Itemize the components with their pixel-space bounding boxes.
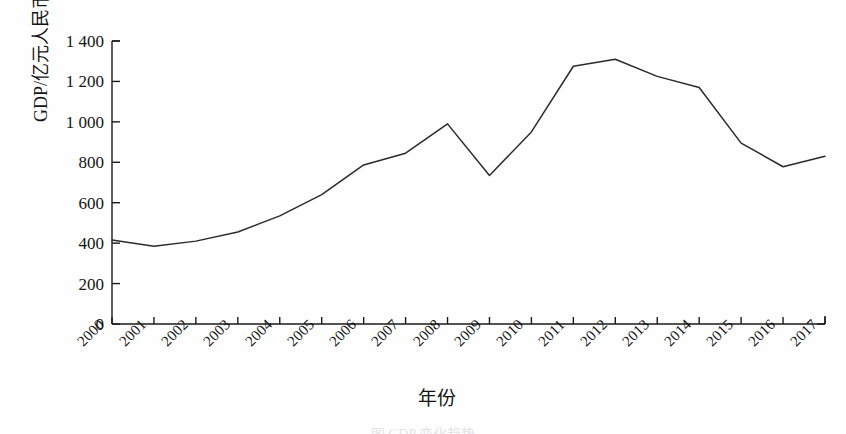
- x-tick-label: 2015: [703, 316, 737, 350]
- x-tick-label: 2016: [745, 316, 779, 350]
- figure-caption: 图 GDP 变化趋势: [0, 424, 846, 434]
- x-axis-title: 年份: [0, 383, 846, 410]
- x-axis-title-text: 年份: [390, 388, 456, 409]
- x-tick-label: 2011: [535, 316, 569, 350]
- x-axis-tick-labels: 2000200120022003200420052006200720082009…: [0, 0, 846, 434]
- x-tick-label: 2013: [619, 316, 653, 350]
- x-tick-label: 2017: [787, 316, 821, 350]
- x-tick-label: 2002: [158, 316, 192, 350]
- x-tick-label: 2000: [74, 316, 108, 350]
- x-tick-label: 2005: [284, 316, 318, 350]
- x-tick-label: 2010: [493, 316, 527, 350]
- x-tick-label: 2008: [410, 316, 444, 350]
- chart-figure: GDP/亿元人民币 1 400 1 200 1 000 800 600 400 …: [0, 0, 846, 434]
- x-tick-label: 2007: [368, 316, 402, 350]
- x-tick-label: 2001: [116, 316, 150, 350]
- x-tick-label: 2006: [326, 316, 360, 350]
- x-tick-label: 2009: [451, 316, 485, 350]
- x-tick-label: 2003: [200, 316, 234, 350]
- x-tick-label: 2004: [242, 316, 276, 350]
- x-tick-label: 2012: [577, 316, 611, 350]
- x-tick-label: 2014: [661, 316, 695, 350]
